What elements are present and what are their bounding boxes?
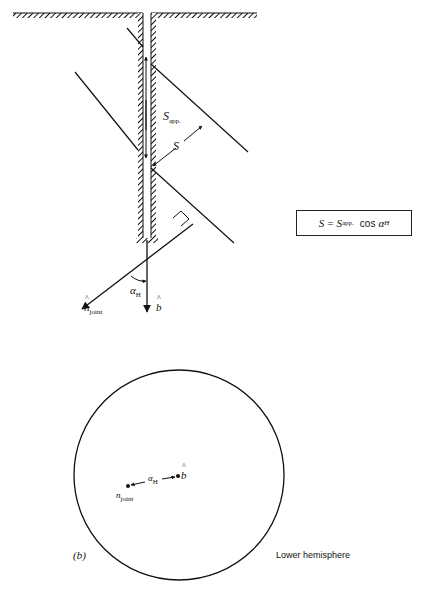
s-app-label: Sapp. bbox=[163, 110, 181, 125]
s-label: S bbox=[173, 140, 179, 152]
alpha-h-label: αH bbox=[130, 285, 141, 299]
joint-traces bbox=[75, 28, 248, 243]
hemisphere-label: Lower hemisphere bbox=[276, 551, 350, 560]
alpha-h-arc-stereonet-right bbox=[162, 477, 175, 479]
n-joint-pole bbox=[126, 484, 130, 488]
diagram-canvas bbox=[0, 0, 431, 594]
b-label: b bbox=[156, 302, 162, 313]
panel-b-label: (b) bbox=[73, 550, 86, 561]
alpha-h-arc-stereonet-left bbox=[131, 482, 145, 485]
formula-box: S = Sapp. cos αH bbox=[296, 210, 412, 236]
s-spacing-arrow bbox=[184, 126, 202, 141]
right-angle-marker bbox=[173, 211, 189, 226]
stereonet-alpha-h-label: αH bbox=[148, 474, 158, 486]
stereonet-b-label: b bbox=[181, 470, 187, 481]
borehole bbox=[136, 13, 158, 243]
b-pole bbox=[176, 474, 180, 478]
alpha-h-arc bbox=[131, 276, 146, 281]
ground-surface bbox=[13, 13, 257, 18]
stereonet-n-joint-label: njoint bbox=[116, 491, 133, 503]
n-joint-label: njoint bbox=[84, 302, 102, 316]
